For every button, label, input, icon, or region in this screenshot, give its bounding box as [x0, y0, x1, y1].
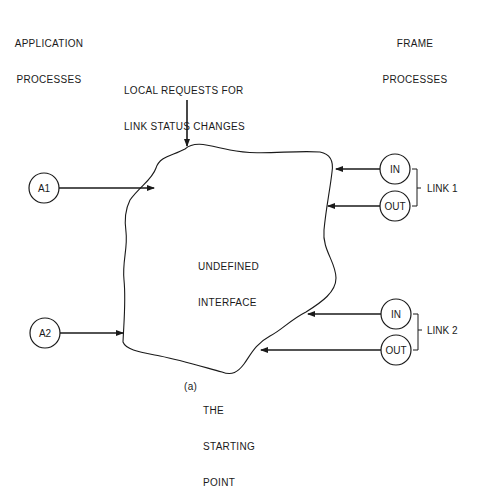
caption-line: POINT: [203, 477, 255, 489]
caption-text: THE STARTING POINT: [203, 381, 255, 490]
svg-text:A1: A1: [38, 183, 51, 194]
application-node-a1[interactable]: A1: [29, 173, 59, 203]
link1-in-node[interactable]: IN: [380, 154, 410, 184]
svg-text:IN: IN: [391, 309, 401, 320]
interface-label: UNDEFINED INTERFACE: [198, 237, 259, 321]
link1-out-node[interactable]: OUT: [380, 191, 410, 221]
link1-label: LINK 1: [427, 183, 458, 194]
svg-text:A2: A2: [39, 328, 52, 339]
link2-out-node[interactable]: OUT: [381, 335, 411, 365]
link2-label: LINK 2: [427, 325, 458, 336]
svg-text:IN: IN: [390, 164, 400, 175]
caption-line: STARTING: [203, 441, 255, 453]
svg-text:OUT: OUT: [384, 201, 405, 212]
label-line: INTERFACE: [198, 297, 259, 309]
svg-text:OUT: OUT: [385, 345, 406, 356]
application-node-a2[interactable]: A2: [30, 318, 60, 348]
link2-bracket: [413, 314, 422, 350]
caption-line: THE: [203, 405, 255, 417]
link2-in-node[interactable]: IN: [381, 299, 411, 329]
link1-bracket: [412, 169, 421, 206]
caption-tag: (a): [184, 381, 197, 393]
label-line: UNDEFINED: [198, 261, 259, 273]
